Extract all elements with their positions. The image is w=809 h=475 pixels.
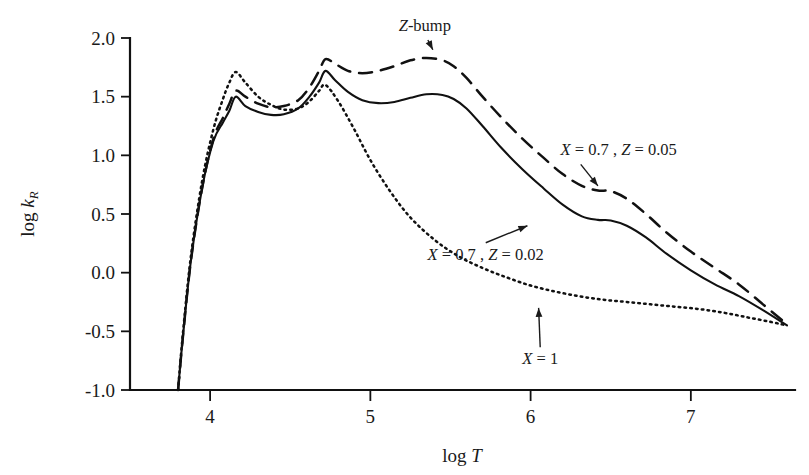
y-tick-label: 0.5	[91, 204, 115, 225]
y-tick-label: 1.5	[91, 86, 115, 107]
axes-frame	[130, 38, 795, 390]
x-tick-label: 6	[526, 406, 536, 427]
annotation-label-series-dotted-label: X = 1	[521, 349, 558, 368]
plot-canvas: -1.0-0.50.00.51.01.52.0 4567 log kR log …	[0, 0, 809, 475]
series-line-dotted	[178, 72, 787, 390]
y-axis-title: log kR	[17, 191, 41, 236]
opacity-figure: -1.0-0.50.00.51.01.52.0 4567 log kR log …	[0, 0, 809, 475]
y-tick-label: -1.0	[85, 380, 115, 401]
x-tick-label: 7	[686, 406, 696, 427]
data-curves	[178, 58, 787, 390]
y-axis-ticks: -1.0-0.50.00.51.01.52.0	[85, 28, 130, 401]
y-tick-label: 0.0	[91, 262, 115, 283]
x-axis-title-symbol: T	[471, 445, 483, 466]
series-line-dashed	[178, 58, 787, 390]
svg-text:log T: log T	[442, 445, 483, 466]
annotation-arrow-series-solid-label	[486, 226, 528, 243]
y-axis-title-subscript: R	[26, 191, 41, 200]
annotation-arrow-series-dotted-label	[536, 308, 543, 347]
x-tick-label: 4	[205, 406, 215, 427]
annotation-label-z-bump: Z-bump	[399, 16, 451, 35]
annotation-label-series-dashed-label: X = 0.7 , Z = 0.05	[560, 140, 677, 159]
y-tick-label: 2.0	[91, 28, 115, 49]
y-tick-label: -0.5	[85, 321, 115, 342]
x-tick-label: 5	[366, 406, 376, 427]
x-axis-ticks: 4567	[205, 390, 695, 427]
annotation-label-series-solid-label: X = 0.7 , Z = 0.02	[427, 245, 544, 264]
y-tick-label: 1.0	[91, 145, 115, 166]
x-axis-title-prefix: log	[442, 445, 471, 466]
series-line-solid	[178, 71, 787, 390]
y-axis-title-prefix: log	[17, 208, 38, 237]
annotation-arrow-series-dashed-label	[581, 164, 598, 186]
annotation-arrow-z-bump	[426, 40, 433, 50]
svg-text:log kR: log kR	[17, 191, 41, 236]
x-axis-title: log T	[442, 445, 483, 466]
chart-annotations: Z-bumpX = 0.7 , Z = 0.05X = 0.7 , Z = 0.…	[399, 16, 677, 368]
